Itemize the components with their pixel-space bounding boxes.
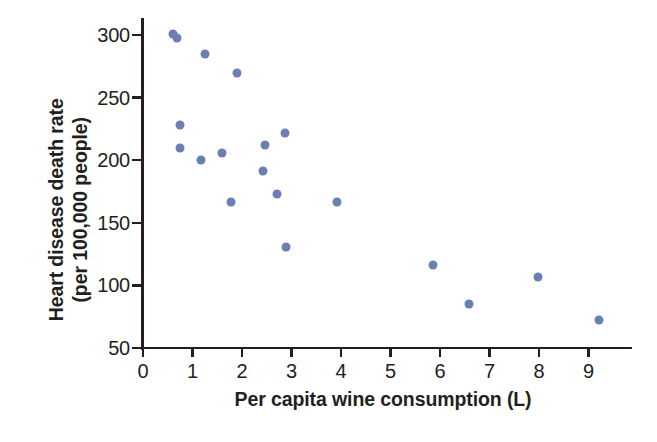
data-point [465,300,474,309]
x-tick-mark [340,347,342,357]
x-tick-mark [191,347,193,357]
y-axis-title-line1: Heart disease death rate [45,98,67,321]
x-tick-label: 5 [385,360,396,383]
x-tick-mark [389,347,391,357]
x-axis-title: Per capita wine consumption (L) [133,388,633,411]
x-tick-mark [439,347,441,357]
data-point [196,156,205,165]
data-point [227,197,236,206]
x-tick-label: 7 [484,360,495,383]
data-point [273,190,282,199]
data-point [594,316,603,325]
x-tick-label: 3 [286,360,297,383]
x-tick-label: 6 [434,360,445,383]
data-point [218,148,227,157]
y-tick-label: 50 [108,337,130,360]
x-tick-label: 4 [335,360,346,383]
y-tick-mark [132,34,142,36]
y-tick-label: 200 [97,149,130,172]
data-point [200,49,209,58]
plot-area [143,18,630,348]
y-axis-title-line2: (per 100,000 people) [69,55,93,365]
x-tick-label: 2 [236,360,247,383]
data-point [260,141,269,150]
y-tick-mark [132,347,142,349]
x-tick-mark [587,347,589,357]
y-tick-label: 150 [97,211,130,234]
y-tick-label: 250 [97,86,130,109]
y-tick-mark [132,284,142,286]
x-tick-label: 0 [137,360,148,383]
y-tick-mark [132,96,142,98]
data-point [534,272,543,281]
x-tick-mark [488,347,490,357]
x-tick-mark [241,347,243,357]
scatter-chart-figure: 50100150200250300 0123456789 Heart disea… [0,0,657,442]
data-point [233,68,242,77]
data-point [429,261,438,270]
x-tick-mark [290,347,292,357]
data-point [282,242,291,251]
y-tick-mark [132,222,142,224]
data-point [173,33,182,42]
x-tick-label: 1 [187,360,198,383]
data-point [176,121,185,130]
y-tick-label: 100 [97,274,130,297]
data-point [281,128,290,137]
data-point [333,197,342,206]
y-tick-mark [132,159,142,161]
y-axis-title: Heart disease death rate (per 100,000 pe… [45,55,93,365]
y-tick-label: 300 [97,24,130,47]
x-tick-mark [538,347,540,357]
data-point [176,143,185,152]
x-tick-label: 9 [583,360,594,383]
data-point [258,167,267,176]
x-tick-label: 8 [533,360,544,383]
